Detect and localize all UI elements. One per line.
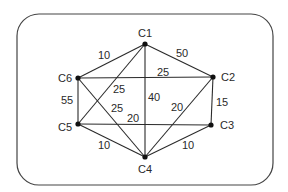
node-c1 [142, 41, 147, 46]
edge-weight-label: 10 [98, 49, 110, 61]
edge-weight-label: 40 [148, 91, 160, 103]
node-c5 [75, 121, 80, 126]
node-label-c1: C1 [138, 27, 152, 39]
edge-c5-c3 [78, 124, 211, 125]
edge-weight-label: 10 [98, 139, 110, 151]
edge-weight-label: 25 [111, 102, 123, 114]
edge-weight-label: 25 [113, 83, 125, 95]
edge-weight-label: 20 [171, 101, 183, 113]
edge-c2-c3 [211, 77, 213, 125]
edge-c3-c4 [145, 125, 211, 157]
node-label-c4: C4 [138, 163, 152, 175]
edge-weight-label: 10 [182, 139, 194, 151]
edge-c2-c4 [145, 77, 213, 157]
edge-weight-label: 25 [157, 66, 169, 78]
node-label-c2: C2 [221, 71, 235, 83]
edge-c5-c4 [78, 124, 145, 157]
edge-weight-label: 55 [61, 94, 73, 106]
node-c4 [142, 154, 147, 159]
node-label-c6: C6 [58, 72, 72, 84]
node-label-c3: C3 [220, 119, 234, 131]
node-labels-group: C1C2C3C4C5C6 [58, 27, 235, 175]
graph-canvas: 105025254055152520201010 C1C2C3C4C5C6 [0, 0, 288, 192]
graph-diagram: 105025254055152520201010 C1C2C3C4C5C6 [0, 0, 288, 192]
edge-weight-label: 20 [127, 112, 139, 124]
edge-weight-label: 50 [176, 47, 188, 59]
node-c3 [208, 122, 213, 127]
edge-weight-label: 15 [216, 96, 228, 108]
node-c2 [210, 74, 215, 79]
node-label-c5: C5 [58, 121, 72, 133]
edge-c1-c6 [78, 44, 145, 78]
node-c6 [75, 75, 80, 80]
